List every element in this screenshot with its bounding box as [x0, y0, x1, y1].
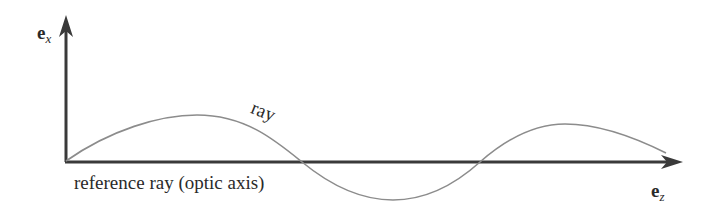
x-axis — [65, 155, 683, 169]
reference-ray-caption: reference ray (optic axis) — [74, 172, 264, 194]
x-axis-label: ez — [651, 180, 665, 202]
x-axis-label-sub: z — [659, 189, 664, 204]
y-axis-label: ex — [37, 22, 51, 44]
y-axis — [59, 15, 73, 162]
y-axis-label-sub: x — [45, 31, 51, 46]
